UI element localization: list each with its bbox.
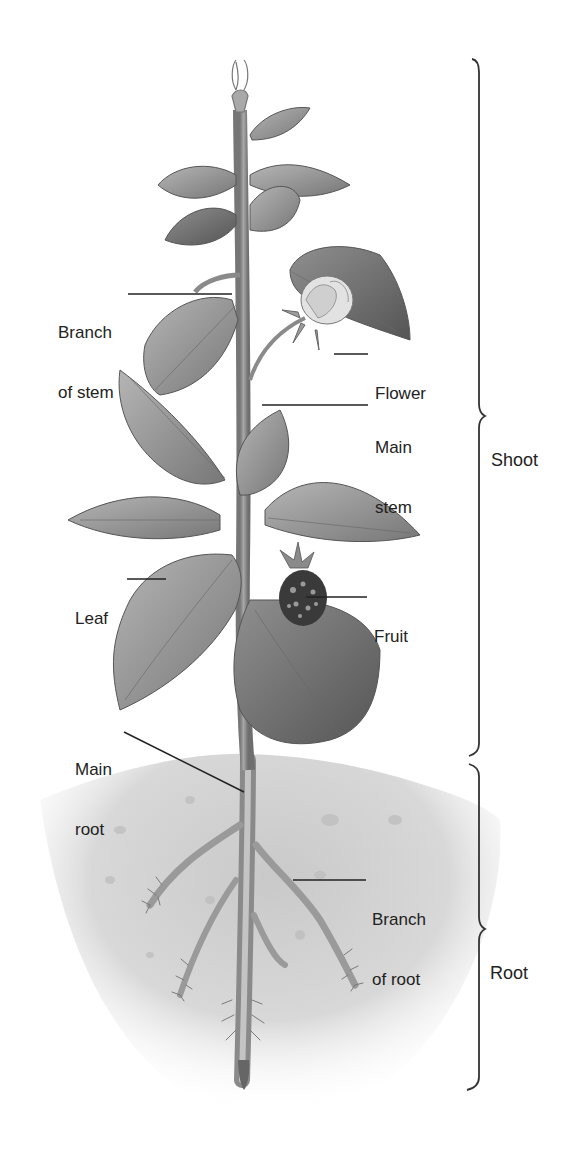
label-leaf: Leaf	[75, 569, 108, 669]
plant-diagram: Branch of stem Flower Main stem Leaf Fru…	[0, 0, 585, 1154]
label-main-root: Main root	[75, 720, 112, 880]
stem-branch	[195, 275, 240, 292]
label-main-stem: Main stem	[375, 398, 412, 558]
shoot-bracket	[469, 59, 485, 756]
label-branch-of-root: Branch of root	[372, 870, 426, 1030]
label-root: Root	[490, 923, 528, 1023]
apex-bud	[232, 60, 248, 112]
fruit	[279, 542, 327, 626]
label-fruit: Fruit	[374, 587, 408, 687]
label-shoot: Shoot	[491, 410, 538, 510]
label-branch-of-stem: Branch of stem	[58, 283, 114, 443]
